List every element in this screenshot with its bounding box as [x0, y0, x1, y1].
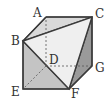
label-a: A	[32, 6, 42, 20]
label-e: E	[11, 85, 20, 99]
label-d: D	[49, 53, 59, 67]
label-g: G	[95, 61, 105, 75]
label-f: F	[71, 87, 79, 100]
label-c: C	[95, 7, 104, 21]
cube-diagram: A C B D G E F	[0, 0, 111, 100]
label-b: B	[11, 34, 20, 48]
